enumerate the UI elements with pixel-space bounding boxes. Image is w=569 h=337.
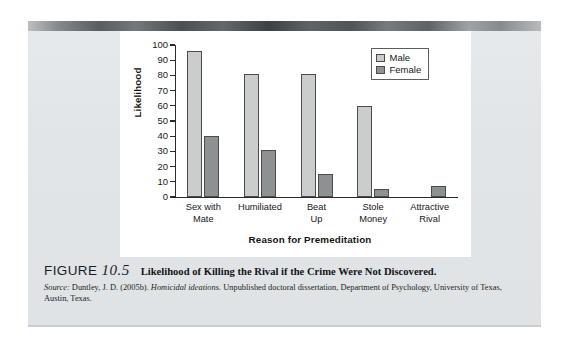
y-tick-label: 40: [120, 131, 168, 141]
bar-chart: Likelihood 0102030405060708090100 Sex wi…: [120, 31, 471, 257]
y-tick-label: 90: [120, 55, 168, 65]
y-tick-mark: [170, 60, 175, 61]
figure-word: FIGURE: [44, 263, 97, 278]
y-tick-mark: [170, 196, 175, 197]
y-tick-mark: [170, 151, 175, 152]
source-text-part1: Duntley, J. D. (2005b).: [70, 283, 151, 292]
bar-female: [431, 186, 446, 197]
bar-female: [204, 136, 219, 197]
y-tick-label: 70: [120, 86, 168, 96]
category-label: Attractive Rival: [393, 202, 466, 225]
source-prefix: Source:: [44, 283, 70, 292]
x-axis-title: Reason for Premeditation: [160, 234, 460, 245]
y-tick-mark: [170, 44, 175, 45]
y-tick-mark: [170, 75, 175, 76]
y-tick-label: 20: [120, 162, 168, 172]
y-tick-label: 100: [120, 40, 168, 50]
bar-female: [261, 150, 276, 197]
scan-gutter-shadow: [28, 21, 541, 31]
figure-page: Likelihood 0102030405060708090100 Sex wi…: [0, 0, 569, 337]
bar-male: [357, 106, 372, 197]
source-citation: Source: Duntley, J. D. (2005b). Homicida…: [44, 283, 518, 304]
bar-female: [318, 174, 333, 197]
source-title-italic: Homicidal ideations.: [151, 283, 221, 292]
y-tick-label: 10: [120, 177, 168, 187]
y-tick-mark: [170, 105, 175, 106]
bar-female: [374, 189, 389, 197]
female-swatch-icon: [376, 66, 385, 75]
figure-title: Likelihood of Killing the Rival if the C…: [141, 266, 437, 277]
bar-male: [244, 74, 259, 197]
chart-panel: Likelihood 0102030405060708090100 Sex wi…: [120, 31, 471, 257]
bar-male: [301, 74, 316, 197]
y-tick-mark: [170, 166, 175, 167]
legend-item-female: Female: [376, 64, 421, 76]
x-axis-line: [175, 197, 458, 198]
y-tick-label: 60: [120, 101, 168, 111]
legend-label-male: Male: [390, 53, 411, 63]
legend-item-male: Male: [376, 52, 421, 64]
y-tick-mark: [170, 120, 175, 121]
y-axis-line: [175, 45, 176, 197]
caption-heading: FIGURE 10.5 Likelihood of Killing the Ri…: [44, 262, 526, 279]
y-tick-label: 50: [120, 116, 168, 126]
figure-caption: FIGURE 10.5 Likelihood of Killing the Ri…: [44, 262, 526, 304]
y-tick-mark: [170, 136, 175, 137]
y-tick-label: 0: [120, 192, 168, 202]
y-tick-mark: [170, 90, 175, 91]
y-tick-label: 80: [120, 70, 168, 80]
male-swatch-icon: [376, 54, 385, 63]
y-tick-label: 30: [120, 146, 168, 156]
chart-legend: Male Female: [371, 48, 429, 80]
scan-bottom-edge: [28, 325, 541, 327]
y-tick-mark: [170, 181, 175, 182]
figure-number: 10.5: [101, 262, 129, 279]
bar-male: [187, 51, 202, 197]
legend-label-female: Female: [390, 65, 422, 75]
